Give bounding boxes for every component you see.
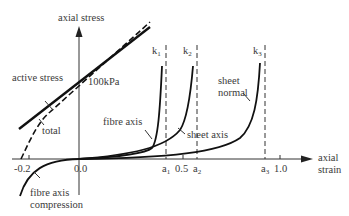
stress-strain-diagram: axial stress axial strain 100kPa active …	[0, 0, 349, 216]
leader-fibre-compression	[34, 172, 40, 178]
tick-label-10: 1.0	[274, 163, 287, 174]
label-sheet-axis: sheet axis	[187, 129, 228, 140]
x-axis-arrow-icon	[301, 156, 313, 163]
tick-label-a1: a1	[162, 163, 170, 178]
tick-label-a2: a2	[193, 163, 201, 178]
annotation-100kpa: 100kPa	[88, 76, 120, 87]
label-sheet-normal-line1: sheet	[218, 75, 240, 86]
label-fibre-compression-line2: compression	[30, 199, 83, 210]
x-axis-label-line2: strain	[318, 164, 341, 175]
label-fibre-compression-line1: fibre axis	[30, 187, 69, 198]
tag-k2: k2	[183, 45, 192, 60]
tick-label-05: 0.5	[175, 163, 188, 174]
tag-k1: k1	[152, 45, 161, 60]
tag-k3: k3	[253, 45, 262, 60]
label-total: total	[42, 125, 61, 136]
label-active-stress: active stress	[12, 72, 63, 83]
tick-label-a3: a3	[261, 163, 269, 178]
diagram-canvas	[0, 0, 349, 216]
leader-fibre-axis	[145, 130, 152, 139]
tick-label-neg02: -0.2	[14, 163, 31, 174]
y-axis-label: axial stress	[58, 12, 104, 23]
tick-label-zero: 0.0	[74, 163, 87, 174]
x-axis-label-line1: axial	[318, 152, 338, 163]
label-fibre-axis: fibre axis	[103, 116, 142, 127]
label-sheet-normal-line2: normal	[218, 87, 248, 98]
y-axis-arrow-icon	[76, 26, 83, 37]
